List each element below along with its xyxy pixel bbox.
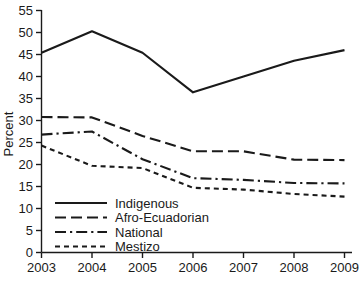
x-tick-label: 2006	[179, 260, 208, 275]
legend-label-national: National	[115, 225, 163, 240]
y-tick-label: 20	[19, 157, 33, 172]
y-tick-label: 50	[19, 25, 33, 40]
x-tick-label: 2003	[27, 260, 56, 275]
y-axis-title: Percent	[1, 111, 16, 156]
legend-label-mestizo: Mestizo	[115, 239, 160, 254]
series-line-national	[42, 132, 345, 184]
series-line-mestizo	[42, 146, 345, 197]
y-tick-label: 10	[19, 201, 33, 216]
y-tick-label: 40	[19, 69, 33, 84]
series-line-indigenous	[42, 31, 345, 92]
x-tick-label: 2005	[128, 260, 157, 275]
y-tick-label: 0	[26, 245, 33, 260]
chart-container: Percent 0510152025303540455055 200320042…	[0, 0, 359, 286]
y-tick-label: 25	[19, 135, 33, 150]
chart-legend: IndigenousAfro-EcuadorianNationalMestizo	[55, 196, 209, 255]
x-tick-label: 2004	[78, 260, 107, 275]
y-tick-label: 35	[19, 91, 33, 106]
x-tick-label: 2007	[229, 260, 258, 275]
y-axis-title-label: Percent	[1, 111, 16, 156]
x-axis-ticks: 2003200420052006200720082009	[27, 253, 359, 276]
y-tick-label: 5	[26, 223, 33, 238]
line-chart: Percent 0510152025303540455055 200320042…	[0, 0, 359, 286]
series-line-afro-ecuadorian	[42, 117, 345, 160]
y-tick-label: 45	[19, 47, 33, 62]
series-lines	[42, 31, 345, 196]
legend-label-indigenous: Indigenous	[115, 196, 179, 211]
y-axis-ticks: 0510152025303540455055	[19, 3, 42, 260]
x-tick-label: 2008	[280, 260, 309, 275]
x-tick-label: 2009	[330, 260, 359, 275]
legend-label-afro-ecuadorian: Afro-Ecuadorian	[115, 210, 209, 225]
y-tick-label: 55	[19, 3, 33, 18]
y-tick-label: 30	[19, 113, 33, 128]
y-tick-label: 15	[19, 179, 33, 194]
